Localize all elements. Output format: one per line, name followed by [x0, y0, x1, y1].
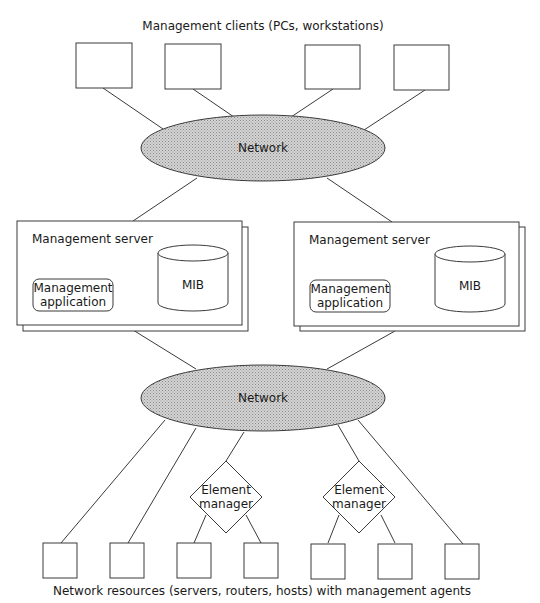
mib-label-left: MIB [158, 278, 228, 292]
resource-box-1 [43, 543, 77, 578]
bottom-caption: Network resources (servers, routers, hos… [0, 584, 524, 598]
mib-label-right: MIB [435, 279, 505, 293]
client-box-1 [76, 43, 132, 88]
element-manager-label-1-line2: manager [191, 497, 261, 511]
resource-box-2 [110, 543, 144, 578]
server-title-left: Management server [32, 232, 153, 246]
network-label-top: Network [213, 141, 313, 155]
client-box-2 [165, 44, 221, 89]
resource-box-6 [378, 544, 412, 579]
network-label-bottom: Network [213, 391, 313, 405]
resource-box-5 [311, 544, 345, 579]
app-label-left-line1: Management [33, 281, 113, 295]
resource-box-7 [445, 544, 479, 579]
client-box-3 [305, 45, 360, 89]
server-title-right: Management server [309, 233, 430, 247]
element-manager-label-1-line1: Element [191, 483, 261, 497]
element-manager-label-2-line1: Element [324, 483, 394, 497]
app-label-right-line2: application [310, 296, 390, 310]
app-label-left-line2: application [33, 295, 113, 309]
top-caption: Management clients (PCs, workstations) [0, 19, 526, 33]
element-manager-label-2-line2: manager [324, 497, 394, 511]
app-label-right-line1: Management [310, 282, 390, 296]
resource-box-3 [177, 543, 211, 578]
resource-box-4 [244, 543, 278, 578]
client-box-4 [394, 45, 449, 90]
